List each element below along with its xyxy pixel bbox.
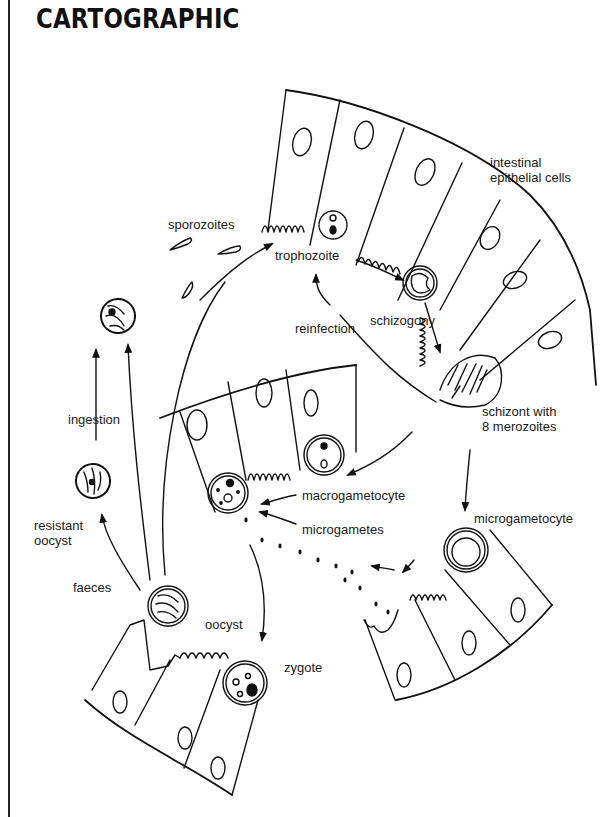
label-microgametocyte: microgametocyte [474, 511, 573, 526]
label-schizont-line1: schizont with [482, 404, 556, 419]
label-resistant: resistant [34, 518, 83, 533]
trophozoite-cell [319, 211, 347, 239]
label-reinfection: reinfection [295, 321, 355, 336]
label-faeces: faeces [73, 580, 111, 595]
label-epithelial-cells: epithelial cells [490, 170, 571, 185]
schizont-cell [440, 355, 502, 407]
label-schizogony: schizogony [370, 313, 435, 328]
label-schizont-line2: 8 merozoites [482, 419, 556, 434]
sporozoites [170, 238, 241, 298]
label-microgametes: microgametes [302, 522, 384, 537]
label-zygote: zygote [284, 660, 322, 675]
label-oocyst: oocyst [205, 617, 243, 632]
epithelium-top [262, 90, 596, 385]
epithelium-bottom-right [364, 528, 552, 700]
label-trophozoite: trophozoite [275, 248, 339, 263]
label-sporozoites: sporozoites [168, 217, 234, 232]
arrows [96, 244, 470, 640]
label-macrogametocyte: macrogametocyte [302, 488, 405, 503]
schizogony-cell [403, 266, 437, 300]
label-resistant-oocyst: oocyst [34, 533, 72, 548]
label-ingestion: ingestion [68, 412, 120, 427]
label-intestinal: intestinal [490, 155, 541, 170]
resistant-oocyst [76, 464, 110, 498]
sporulated-oocyst-top [101, 299, 135, 333]
